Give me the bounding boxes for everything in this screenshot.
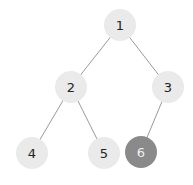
tree-diagram: 123456 [0, 0, 193, 185]
node-label: 5 [100, 146, 108, 161]
edges [32, 25, 168, 153]
node-label: 3 [164, 80, 172, 95]
tree-node-6: 6 [125, 136, 157, 168]
tree-node-4: 4 [16, 137, 48, 169]
tree-node-2: 2 [55, 71, 87, 103]
tree-node-1: 1 [104, 9, 136, 41]
node-label: 2 [67, 80, 75, 95]
node-label: 1 [116, 18, 124, 33]
node-label: 4 [28, 146, 36, 161]
node-label: 6 [137, 145, 145, 160]
tree-node-3: 3 [152, 71, 184, 103]
nodes: 123456 [16, 9, 184, 169]
tree-node-5: 5 [88, 137, 120, 169]
